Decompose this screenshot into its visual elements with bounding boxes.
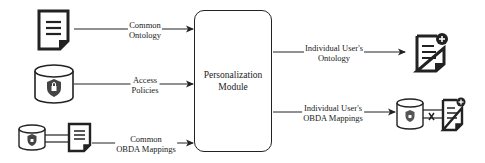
module-title-line: Personalization <box>204 69 263 81</box>
database-lock-icon <box>35 65 73 103</box>
document-icon <box>39 11 68 49</box>
label-user-ontology: Individual User's Ontology <box>304 43 364 63</box>
label-line: Access <box>132 75 159 85</box>
database-document-plus-icon <box>397 98 466 131</box>
personalization-module: Personalization Module <box>194 10 272 152</box>
document-plus-icon <box>417 33 448 71</box>
label-line: Common <box>129 20 161 30</box>
label-line: Individual User's <box>305 43 363 53</box>
label-line: Individual User's <box>303 103 363 113</box>
label-line: Ontology <box>129 30 161 40</box>
label-line: Policies <box>132 85 159 95</box>
module-title-line: Module <box>204 81 263 93</box>
label-line: OBDA Mappings <box>303 113 363 123</box>
label-access-policies: Access Policies <box>131 75 160 95</box>
label-common-obda-mappings: Common OBDA Mappings <box>115 134 177 154</box>
label-user-obda-mappings: Individual User's OBDA Mappings <box>302 103 364 123</box>
database-document-link-icon <box>19 124 90 151</box>
label-line: OBDA Mappings <box>116 144 176 154</box>
label-common-ontology: Common Ontology <box>128 20 162 40</box>
label-line: Common <box>116 134 176 144</box>
label-line: Ontology <box>305 53 363 63</box>
